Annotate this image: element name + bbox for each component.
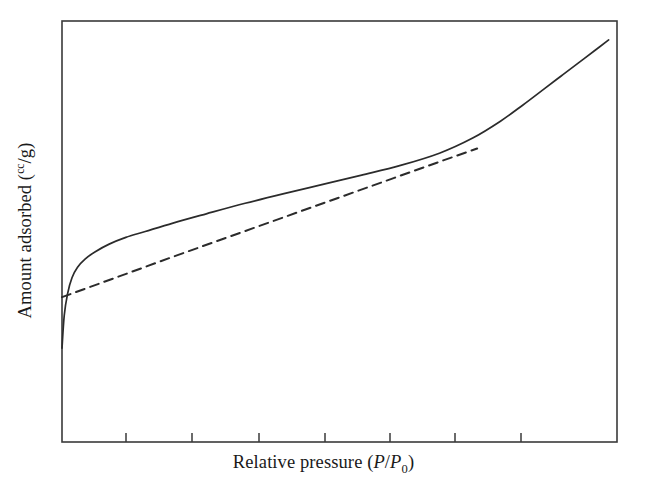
x-axis-title-p-numerator: P (373, 452, 384, 472)
figure-container: Amount adsorbed (cc/g) Relative pressure… (0, 0, 647, 497)
y-axis-title-mid: /g (16, 148, 36, 163)
y-axis-title-prefix: Amount adsorbed ( (16, 173, 36, 318)
x-axis-title: Relative pressure (P/P0) (0, 452, 647, 473)
figure-background (0, 0, 647, 497)
y-axis-title-suffix: ) (16, 142, 36, 148)
x-axis-title-p-denominator: P (390, 452, 401, 472)
x-axis-title-prefix: Relative pressure ( (233, 452, 374, 472)
y-axis-title-superscript: cc (14, 163, 26, 173)
y-axis-title: Amount adsorbed (cc/g) (16, 142, 37, 318)
x-axis-title-suffix: ) (408, 452, 414, 472)
chart-canvas (0, 0, 647, 497)
y-axis-title-wrapper: Amount adsorbed (cc/g) (0, 0, 52, 460)
